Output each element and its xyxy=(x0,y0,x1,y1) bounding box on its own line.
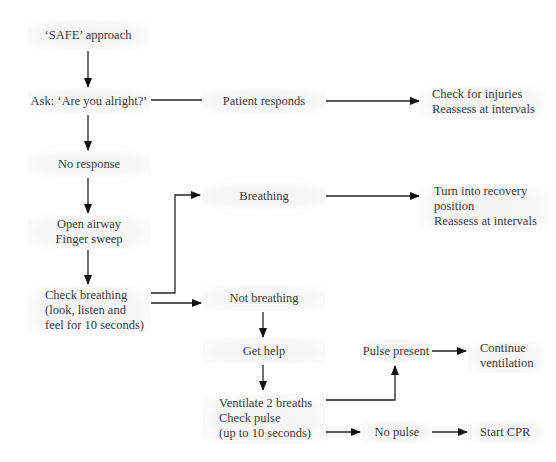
node-safe-approach: ‘SAFE’ approach xyxy=(28,20,148,50)
node-text: Start CPR xyxy=(480,420,544,444)
node-text: Patient responds xyxy=(203,88,325,114)
node-text: Breathing xyxy=(203,183,325,209)
node-check-injuries: Check for injuries Reassess at intervals xyxy=(420,86,545,120)
node-check-breathing: Check breathing (look, listen and feel f… xyxy=(28,286,150,336)
node-ventilate: Ventilate 2 breaths Check pulse (up to 1… xyxy=(203,394,325,444)
node-continue-ventilation: Continue ventilation xyxy=(468,341,544,373)
node-text: Check for injuries xyxy=(432,87,545,102)
node-text: (look, listen and xyxy=(45,303,150,318)
node-text: Turn into recovery xyxy=(434,184,548,199)
node-recovery-position: Turn into recovery position Reassess at … xyxy=(420,184,548,232)
node-text: Check breathing xyxy=(45,288,150,303)
node-text: Ask: ‘Are you alright?’ xyxy=(28,88,150,114)
node-text: position xyxy=(434,199,548,214)
node-text: Pulse present xyxy=(360,339,432,363)
node-open-airway: Open airway Finger sweep xyxy=(28,215,150,249)
node-text: Get help xyxy=(203,338,325,364)
node-text: Continue xyxy=(480,341,544,356)
node-no-pulse: No pulse xyxy=(362,420,432,444)
node-text: No response xyxy=(28,151,150,177)
node-text: Ventilate 2 breaths xyxy=(219,396,325,411)
node-text: feel for 10 seconds) xyxy=(45,318,150,333)
node-text: ventilation xyxy=(480,356,544,371)
node-text: Reassess at intervals xyxy=(434,214,548,229)
node-text: Finger sweep xyxy=(28,232,150,247)
node-ask: Ask: ‘Are you alright?’ xyxy=(28,88,150,114)
node-text: Not breathing xyxy=(203,285,325,311)
arrow-ventilate-to-pulsepresent xyxy=(326,366,395,400)
node-get-help: Get help xyxy=(203,338,325,364)
node-breathing: Breathing xyxy=(203,183,325,209)
node-text: No pulse xyxy=(362,420,432,444)
node-text: Reassess at intervals xyxy=(432,102,545,117)
node-text: ‘SAFE’ approach xyxy=(28,20,148,50)
node-text: Check pulse xyxy=(219,411,325,426)
node-patient-responds: Patient responds xyxy=(203,88,325,114)
node-no-response: No response xyxy=(28,151,150,177)
node-start-cpr: Start CPR xyxy=(468,420,544,444)
node-not-breathing: Not breathing xyxy=(203,285,325,311)
node-text: (up to 10 seconds) xyxy=(219,426,325,441)
node-pulse-present: Pulse present xyxy=(360,339,432,363)
node-text: Open airway xyxy=(28,217,150,232)
arrow-checkbreathing-to-breathing xyxy=(151,195,200,293)
